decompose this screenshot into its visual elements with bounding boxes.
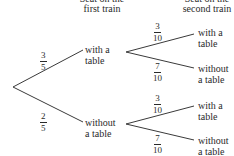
prob-first-with: 3 5	[40, 51, 47, 72]
prob-denominator: 5	[41, 123, 46, 133]
node-label-line1: without	[85, 117, 116, 128]
prob-numerator: 7	[154, 134, 161, 145]
prob-first-without: 2 5	[40, 112, 47, 133]
leaf-with-with: with a table	[198, 27, 223, 49]
prob-denominator: 10	[153, 33, 162, 43]
node-first-without: without a table	[85, 117, 116, 139]
node-label-line2: table	[198, 111, 223, 122]
node-label-line2: table	[198, 38, 223, 49]
prob-denominator: 10	[153, 73, 162, 83]
node-label-line2: a table	[198, 74, 229, 85]
prob-denominator: 10	[153, 105, 162, 115]
node-label-line2: table	[85, 55, 110, 66]
header-second-train: Seat on the second train	[176, 0, 234, 14]
node-label-line1: without	[198, 63, 229, 74]
prob-denominator: 5	[41, 62, 46, 72]
node-label-line1: without	[198, 135, 229, 146]
node-label-line1: with a	[85, 44, 110, 55]
leaf-with-without: without a table	[198, 63, 229, 85]
leaf-without-without: without a table	[198, 135, 229, 156]
prob-denominator: 10	[153, 145, 162, 155]
header-first-line2: first train	[72, 4, 132, 14]
prob-with-with: 3 10	[153, 22, 162, 43]
node-label-line1: with a	[198, 100, 223, 111]
prob-without-without: 7 10	[153, 134, 162, 155]
prob-numerator: 3	[154, 94, 161, 105]
probability-tree-diagram: Seat on the first train Seat on the seco…	[0, 0, 234, 156]
prob-numerator: 7	[154, 62, 161, 73]
node-first-with: with a table	[85, 44, 110, 66]
header-first-train: Seat on the first train	[72, 0, 132, 14]
prob-numerator: 3	[154, 22, 161, 33]
header-second-line2: second train	[176, 4, 234, 14]
branch-root-to-without	[13, 87, 83, 122]
node-label-line2: a table	[85, 128, 116, 139]
leaf-without-with: with a table	[198, 100, 223, 122]
node-label-line1: with a	[198, 27, 223, 38]
prob-numerator: 3	[40, 51, 47, 62]
prob-numerator: 2	[40, 112, 47, 123]
node-label-line2: a table	[198, 146, 229, 156]
prob-with-without: 7 10	[153, 62, 162, 83]
prob-without-with: 3 10	[153, 94, 162, 115]
branch-root-to-with	[13, 50, 83, 87]
